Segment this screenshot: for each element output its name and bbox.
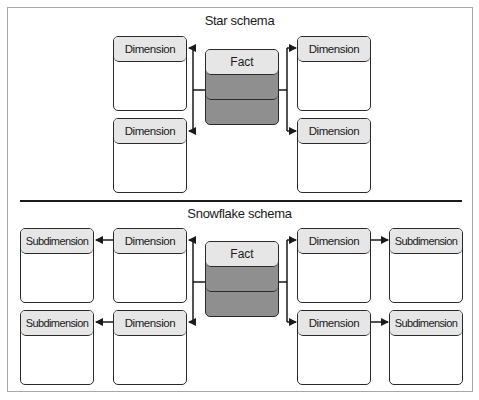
snowflake-dimension-top-right: Dimension (297, 228, 371, 303)
star-dimension-top-right: Dimension (297, 36, 371, 111)
snowflake-schema-title: Snowflake schema (0, 206, 479, 221)
dimension-label: Dimension (298, 311, 370, 336)
subdimension-label: Subdimension (21, 229, 93, 254)
snowflake-fact-table: Fact (205, 241, 279, 317)
star-schema-title: Star schema (0, 13, 479, 28)
dimension-label: Dimension (114, 311, 186, 336)
snowflake-subdimension-bottom-left: Subdimension (20, 310, 94, 385)
star-dimension-top-left: Dimension (113, 36, 187, 111)
subdimension-label: Subdimension (390, 229, 462, 254)
fact-row (206, 75, 278, 100)
fact-row (206, 267, 278, 292)
dimension-label: Dimension (298, 229, 370, 254)
star-fact-table: Fact (205, 49, 279, 125)
fact-label: Fact (206, 242, 278, 267)
dimension-label: Dimension (114, 229, 186, 254)
snowflake-subdimension-bottom-right: Subdimension (389, 310, 463, 385)
section-divider (20, 200, 462, 202)
dimension-label: Dimension (114, 119, 186, 144)
fact-label: Fact (206, 50, 278, 75)
snowflake-subdimension-top-left: Subdimension (20, 228, 94, 303)
snowflake-dimension-top-left: Dimension (113, 228, 187, 303)
subdimension-label: Subdimension (21, 311, 93, 336)
dimension-label: Dimension (298, 119, 370, 144)
star-dimension-bottom-right: Dimension (297, 118, 371, 193)
dimension-label: Dimension (298, 37, 370, 62)
subdimension-label: Subdimension (390, 311, 462, 336)
snowflake-dimension-bottom-left: Dimension (113, 310, 187, 385)
star-dimension-bottom-left: Dimension (113, 118, 187, 193)
snowflake-dimension-bottom-right: Dimension (297, 310, 371, 385)
snowflake-subdimension-top-right: Subdimension (389, 228, 463, 303)
dimension-label: Dimension (114, 37, 186, 62)
